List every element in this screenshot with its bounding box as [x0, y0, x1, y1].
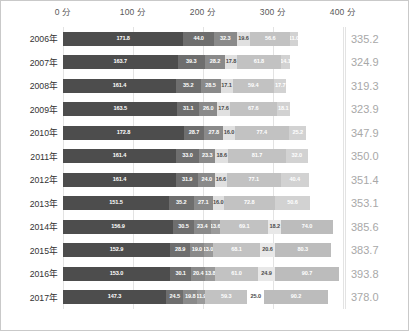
x-axis-tick-200: 200 分: [190, 5, 217, 17]
bar-segment-2[interactable]: 31.9: [176, 173, 198, 187]
bar-segment-value: 13.8: [205, 271, 215, 277]
x-axis-tick-300: 300 分: [260, 5, 287, 17]
bar-segment-5[interactable]: 68.1: [213, 243, 261, 257]
bar-segment-3[interactable]: 27.8: [204, 126, 223, 140]
bar-segment-6[interactable]: 25.2: [289, 126, 307, 140]
bar-segment-5[interactable]: 59.4: [233, 79, 275, 93]
bar-segment-4[interactable]: 16.6: [215, 173, 227, 187]
bar-segment-4[interactable]: 16.0: [223, 126, 234, 140]
bar-segment-6[interactable]: 40.4: [281, 173, 309, 187]
bar-segment-7[interactable]: 90.2: [264, 290, 327, 304]
bar-segment-2[interactable]: 44.0: [183, 32, 214, 46]
bar-segment-3[interactable]: 32.3: [214, 32, 237, 46]
bar-segment-2[interactable]: 24.5: [166, 290, 183, 304]
bar-segment-5[interactable]: 77.4: [235, 126, 289, 140]
bar-segment-2[interactable]: 33.0: [176, 149, 199, 163]
bar-segment-4[interactable]: 17.8: [225, 55, 237, 69]
bar-segment-4[interactable]: 19.6: [237, 32, 251, 46]
bar-segment-1[interactable]: 161.4: [63, 79, 176, 93]
bar-segment-4[interactable]: 13.6: [211, 220, 221, 234]
bar-segment-5[interactable]: 67.6: [230, 102, 277, 116]
bar-segment-2[interactable]: 30.5: [173, 220, 194, 234]
bar-segment-value: 161.4: [113, 153, 127, 159]
bar-segment-value: 56.6: [265, 36, 276, 42]
bar-segment-3[interactable]: 28.5: [201, 79, 221, 93]
bar-segment-3[interactable]: 28.2: [205, 55, 225, 69]
bar-segment-3[interactable]: 19.8: [183, 290, 197, 304]
bar-segment-1[interactable]: 172.8: [63, 126, 184, 140]
bar-segment-6[interactable]: 25.0: [247, 290, 265, 304]
bar-segment-3[interactable]: 26.0: [199, 102, 217, 116]
stacked-bar[interactable]: 161.433.023.318.681.732.0: [63, 149, 308, 163]
bar-segment-5[interactable]: 56.6: [250, 32, 290, 46]
stacked-bar[interactable]: 161.431.924.016.677.140.4: [63, 173, 309, 187]
bar-segment-5[interactable]: 69.1: [220, 220, 268, 234]
bar-segment-5[interactable]: 77.1: [227, 173, 281, 187]
bar-segment-6[interactable]: 24.9: [258, 267, 275, 281]
bar-segment-6[interactable]: 32.0: [286, 149, 308, 163]
stacked-bar[interactable]: 152.928.919.013.068.120.680.3: [63, 243, 331, 257]
stacked-bar[interactable]: 156.930.523.413.669.118.274.0: [63, 220, 333, 234]
stacked-bar[interactable]: 147.324.519.811.959.325.090.2: [63, 290, 328, 304]
bar-segment-6[interactable]: 14.1: [281, 55, 291, 69]
bar-segment-2[interactable]: 31.1: [177, 102, 199, 116]
bar-segment-2[interactable]: 30.1: [170, 267, 191, 281]
bar-segment-1[interactable]: 156.9: [63, 220, 173, 234]
bar-segment-4[interactable]: 13.8: [205, 267, 215, 281]
bar-segment-3[interactable]: 23.4: [194, 220, 210, 234]
bar-segment-7[interactable]: 74.0: [281, 220, 333, 234]
bar-segment-3[interactable]: 23.3: [199, 149, 215, 163]
bar-segment-1[interactable]: 163.7: [63, 55, 178, 69]
bar-segment-2[interactable]: 35.2: [176, 79, 201, 93]
bar-segment-7[interactable]: 80.3: [275, 243, 331, 257]
bar-segment-1[interactable]: 147.3: [63, 290, 166, 304]
bar-segment-value: 28.7: [189, 130, 200, 136]
stacked-bar[interactable]: 161.435.228.517.159.417.7: [63, 79, 286, 93]
bar-segment-4[interactable]: 11.9: [197, 290, 205, 304]
bar-segment-4[interactable]: 18.6: [215, 149, 228, 163]
stacked-bar[interactable]: 172.828.727.816.077.425.2: [63, 126, 306, 140]
bar-segment-2[interactable]: 39.3: [178, 55, 206, 69]
bar-segment-2[interactable]: 28.7: [184, 126, 204, 140]
bar-segment-3[interactable]: 19.0: [190, 243, 203, 257]
bar-segment-1[interactable]: 161.4: [63, 149, 176, 163]
bar-segment-value: 19.8: [185, 294, 196, 300]
row-total-value: 393.8: [351, 268, 406, 280]
bar-segment-4[interactable]: 17.6: [217, 102, 229, 116]
bar-segment-4[interactable]: 13.0: [204, 243, 213, 257]
bar-segment-4[interactable]: 16.0: [213, 196, 224, 210]
bar-segment-value: 18.1: [278, 106, 289, 112]
bar-segment-1[interactable]: 153.0: [63, 267, 170, 281]
bar-segment-2[interactable]: 28.9: [170, 243, 190, 257]
bar-segment-6[interactable]: 20.6: [260, 243, 274, 257]
bar-segment-2[interactable]: 35.2: [169, 196, 194, 210]
bar-segment-6[interactable]: 18.2: [268, 220, 281, 234]
stacked-bar[interactable]: 163.531.126.017.667.618.1: [63, 102, 290, 116]
bar-segment-5[interactable]: 61.0: [215, 267, 258, 281]
stacked-bar[interactable]: 163.739.328.217.861.814.1: [63, 55, 290, 69]
bar-segment-value: 25.2: [292, 130, 303, 136]
bar-segment-1[interactable]: 163.5: [63, 102, 177, 116]
bar-segment-1[interactable]: 152.9: [63, 243, 170, 257]
bar-segment-6[interactable]: 11.0: [290, 32, 298, 46]
bar-segment-1[interactable]: 151.5: [63, 196, 169, 210]
bar-segment-5[interactable]: 81.7: [228, 149, 285, 163]
stacked-bar[interactable]: 171.844.032.319.656.611.0: [63, 32, 298, 46]
stacked-bar[interactable]: 151.535.227.116.072.850.6: [63, 196, 310, 210]
bar-segment-3[interactable]: 20.4: [191, 267, 205, 281]
bar-segment-5[interactable]: 61.8: [237, 55, 280, 69]
bar-segment-1[interactable]: 171.8: [63, 32, 183, 46]
bar-segment-3[interactable]: 24.0: [198, 173, 215, 187]
bar-segment-6[interactable]: 50.6: [275, 196, 310, 210]
bar-segment-1[interactable]: 161.4: [63, 173, 176, 187]
bar-segment-7[interactable]: 90.7: [275, 267, 338, 281]
bar-segment-3[interactable]: 27.1: [194, 196, 213, 210]
bar-segment-5[interactable]: 59.3: [205, 290, 247, 304]
bar-segment-6[interactable]: 18.1: [277, 102, 290, 116]
bar-segment-6[interactable]: 17.7: [274, 79, 286, 93]
row-total-value: 378.0: [351, 291, 406, 303]
bar-segment-4[interactable]: 17.1: [221, 79, 233, 93]
stacked-bar[interactable]: 153.030.120.413.861.024.990.7: [63, 267, 339, 281]
bar-segment-5[interactable]: 72.8: [224, 196, 275, 210]
row-total-value: 351.4: [351, 174, 406, 186]
